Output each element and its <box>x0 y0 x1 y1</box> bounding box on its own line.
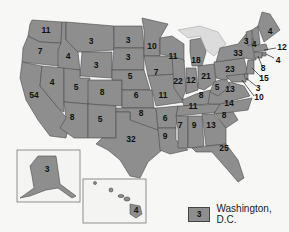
label-iowa: 7 <box>154 67 159 77</box>
label-michigan: 18 <box>191 55 201 65</box>
label-south-carolina: 8 <box>222 110 227 120</box>
label-arizona: 8 <box>70 112 75 122</box>
label-alaska: 3 <box>45 164 50 174</box>
label-nevada: 4 <box>50 77 55 87</box>
label-ohio: 21 <box>201 71 211 81</box>
label-rhode-island: 4 <box>276 55 281 65</box>
hawaii-island-maui <box>124 197 130 201</box>
hawaii-island-kauai <box>94 182 97 185</box>
label-tennessee: 11 <box>189 101 198 111</box>
label-indiana: 12 <box>186 75 196 85</box>
state-florida[interactable] <box>192 144 244 182</box>
label-california: 54 <box>29 90 39 100</box>
label-new-hampshire: 4 <box>252 39 257 49</box>
legend-label: Washington, D.C. <box>216 203 289 225</box>
label-new-jersey: 15 <box>259 73 269 83</box>
label-missouri: 11 <box>159 90 168 100</box>
label-colorado: 8 <box>100 87 105 97</box>
label-west-virginia: 5 <box>215 82 220 92</box>
label-new-york: 33 <box>233 48 243 58</box>
label-utah: 5 <box>74 82 79 92</box>
label-north-dakota: 3 <box>126 35 131 45</box>
label-washington: 11 <box>42 25 51 35</box>
state-connecticut[interactable] <box>254 52 262 58</box>
label-connecticut: 8 <box>261 63 266 73</box>
label-wyoming: 3 <box>94 60 99 70</box>
label-illinois: 22 <box>173 76 183 86</box>
label-arkansas: 6 <box>163 113 168 123</box>
label-new-mexico: 5 <box>98 114 103 124</box>
state-rhode-island[interactable] <box>262 52 266 56</box>
us-map: 11 7 54 4 4 3 3 5 8 8 5 3 3 5 6 8 32 10 … <box>0 0 289 232</box>
state-new-jersey[interactable] <box>246 60 254 74</box>
label-minnesota: 10 <box>147 41 157 51</box>
state-colorado[interactable] <box>88 80 122 106</box>
leader-delaware <box>246 78 256 86</box>
label-texas: 32 <box>126 134 136 144</box>
label-wisconsin: 11 <box>169 51 178 61</box>
label-nebraska: 5 <box>128 71 133 81</box>
legend: 3 Washington, D.C. <box>188 203 289 225</box>
label-massachusetts: 12 <box>277 42 287 52</box>
legend-swatch: 3 <box>188 207 210 222</box>
label-florida: 25 <box>219 143 229 153</box>
label-idaho: 4 <box>66 51 71 61</box>
label-maryland: 10 <box>254 92 264 102</box>
label-pennsylvania: 23 <box>225 64 235 74</box>
label-montana: 3 <box>89 36 94 46</box>
label-kentucky: 8 <box>199 90 204 100</box>
label-south-dakota: 3 <box>126 52 131 62</box>
label-vermont: 3 <box>244 36 249 46</box>
label-georgia: 13 <box>206 120 216 130</box>
label-mississippi: 7 <box>178 120 183 130</box>
label-hawaii: 4 <box>134 205 139 215</box>
state-tennessee[interactable] <box>176 104 222 116</box>
label-virginia: 13 <box>225 84 235 94</box>
label-maine: 4 <box>268 26 273 36</box>
leader-rhode-island <box>266 54 274 58</box>
label-alabama: 9 <box>192 120 197 130</box>
label-north-carolina: 14 <box>224 98 234 108</box>
hawaii-island-molokai <box>118 195 124 198</box>
label-kansas: 6 <box>134 90 139 100</box>
hawaii-island-oahu <box>109 188 113 192</box>
label-oklahoma: 8 <box>139 108 144 118</box>
label-louisiana: 9 <box>163 131 168 141</box>
label-oregon: 7 <box>38 46 43 56</box>
